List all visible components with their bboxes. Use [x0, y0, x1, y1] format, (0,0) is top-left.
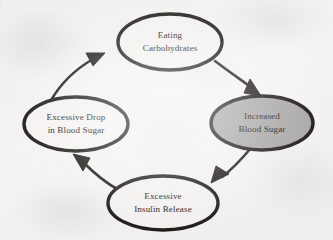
arrow-insulin-to-drop-head — [73, 154, 90, 171]
arrow-eating-to-increased-line — [215, 61, 252, 88]
arrow-eating-to-increased — [215, 61, 261, 96]
node-layer — [24, 14, 313, 230]
scanned-page-canvas: Eating Carbohydrates Increased Blood Sug… — [0, 0, 333, 240]
arrow-increased-to-insulin — [211, 148, 251, 183]
node-increased-blood-sugar-shape[interactable] — [211, 96, 313, 150]
arrow-drop-to-eating — [50, 53, 105, 102]
cycle-diagram — [0, 0, 333, 240]
node-excessive-insulin-release-shape[interactable] — [108, 176, 218, 230]
arrow-insulin-to-drop — [73, 154, 117, 189]
arrow-drop-to-eating-head — [86, 53, 105, 66]
arrow-eating-to-increased-head — [244, 79, 261, 96]
arrow-increased-to-insulin-head — [211, 166, 229, 183]
node-eating-carbohydrates-shape[interactable] — [118, 14, 222, 70]
node-excessive-drop-in-blood-sugar-shape[interactable] — [24, 97, 128, 151]
arrow-insulin-to-drop-line — [84, 163, 117, 189]
